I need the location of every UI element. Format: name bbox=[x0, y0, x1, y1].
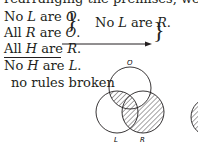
brace-final: } bbox=[153, 18, 165, 42]
conclusion: No H are L. bbox=[4, 59, 81, 73]
partial-venn-diagram bbox=[188, 96, 198, 138]
intro-text: rearranging the premises, we have bbox=[4, 0, 198, 6]
arrow-icon bbox=[60, 40, 152, 48]
label-R: R bbox=[140, 136, 145, 143]
brace-premises-1-2: } bbox=[66, 8, 78, 32]
venn-diagram: O L R bbox=[90, 60, 170, 143]
label-O: O bbox=[127, 60, 133, 67]
label-L: L bbox=[114, 136, 118, 143]
